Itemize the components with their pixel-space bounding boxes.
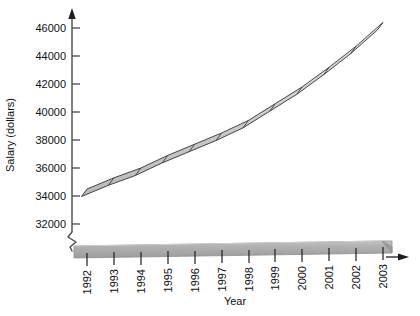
x-tick-label: 1995 bbox=[162, 268, 174, 292]
x-tick-label: 1994 bbox=[135, 269, 147, 293]
salary-line-chart: 46000 44000 42000 40000 38000 36000 3400… bbox=[0, 0, 420, 316]
y-tick-label: 34000 bbox=[35, 190, 66, 202]
x-tick-label: 1997 bbox=[216, 267, 228, 291]
x-tick-label: 1996 bbox=[189, 268, 201, 292]
ribbon-surface bbox=[82, 22, 384, 196]
ribbon-segment-dividers bbox=[108, 46, 356, 185]
y-tick-label: 32000 bbox=[35, 218, 66, 230]
data-series-ribbon bbox=[82, 22, 384, 196]
x-tick-label: 2002 bbox=[350, 265, 362, 289]
x-axis-tick-labels: 1992 1993 1994 1995 1996 1997 1998 1999 … bbox=[81, 264, 389, 294]
x-axis-title: Year bbox=[224, 295, 247, 307]
x-tick-label: 2001 bbox=[323, 265, 335, 289]
y-tick-label: 36000 bbox=[35, 162, 66, 174]
x-axis-baseline-slab bbox=[74, 241, 409, 261]
y-axis: 46000 44000 42000 40000 38000 36000 3400… bbox=[4, 8, 80, 251]
chart-svg: 46000 44000 42000 40000 38000 36000 3400… bbox=[0, 0, 420, 316]
x-tick-label: 1993 bbox=[108, 269, 120, 293]
x-tick-label: 2003 bbox=[377, 264, 389, 288]
x-tick-label: 1999 bbox=[269, 266, 281, 290]
y-tick-label: 40000 bbox=[35, 106, 66, 118]
y-axis-ticks bbox=[72, 28, 80, 224]
y-axis-title: Salary (dollars) bbox=[4, 98, 16, 172]
x-tick-label: 1998 bbox=[243, 267, 255, 291]
x-tick-label: 2000 bbox=[296, 266, 308, 290]
x-tick-label: 1992 bbox=[81, 270, 93, 294]
x-axis-arrow-icon bbox=[398, 253, 409, 260]
y-tick-label: 42000 bbox=[35, 78, 66, 90]
y-tick-label: 44000 bbox=[35, 50, 66, 62]
y-tick-label: 38000 bbox=[35, 134, 66, 146]
y-axis-arrow-icon bbox=[68, 8, 75, 19]
y-tick-label: 46000 bbox=[35, 22, 66, 34]
